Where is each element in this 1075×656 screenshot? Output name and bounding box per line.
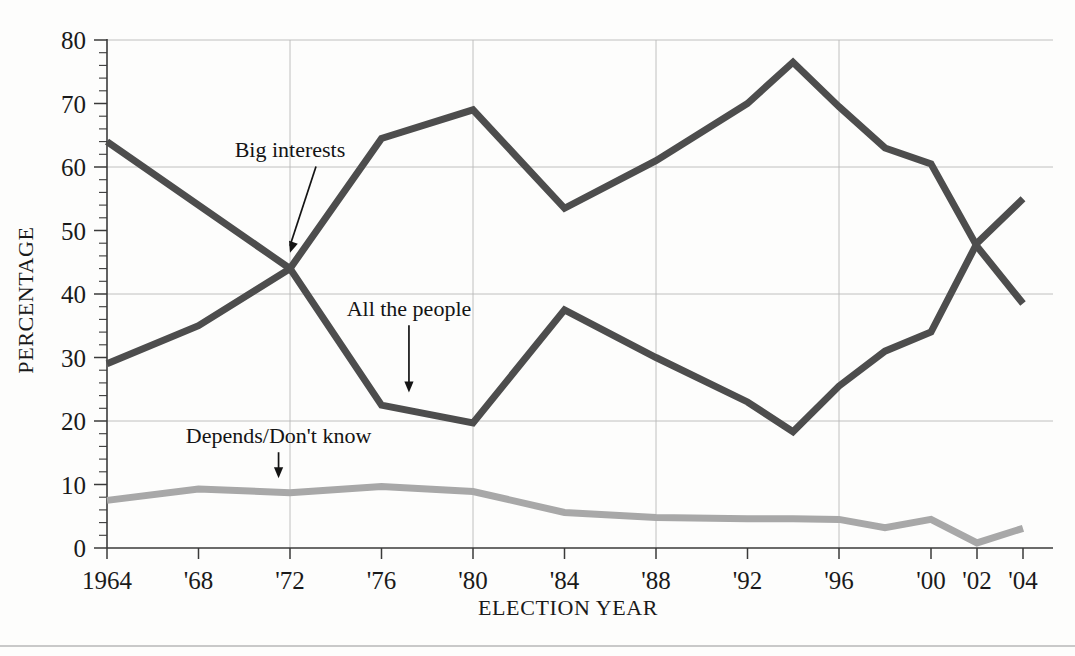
series-line-0: [107, 62, 1023, 364]
ticks-group: [94, 40, 1023, 559]
y-tick-label: 50: [61, 218, 86, 245]
y-tick-label: 40: [61, 281, 86, 308]
y-tick-label: 80: [61, 27, 86, 54]
annotation-label-2: Depends/Don't know: [186, 423, 372, 448]
y-tick-label: 0: [74, 535, 87, 562]
x-tick-label: '00: [916, 567, 946, 594]
series-group: [107, 62, 1023, 543]
y-tick-label: 20: [61, 408, 86, 435]
x-tick-label: '72: [275, 567, 305, 594]
y-tick-label: 70: [61, 91, 86, 118]
x-tick-label: '96: [824, 567, 854, 594]
annotation-arrowhead-0: [286, 241, 298, 254]
x-tick-label: '84: [550, 567, 580, 594]
annotation-label-0: Big interests: [235, 137, 346, 162]
x-tick-label: '88: [641, 567, 671, 594]
y-tick-label: 60: [61, 154, 86, 181]
x-tick-label: '02: [962, 567, 992, 594]
chart-figure: 01020304050607080 1964'68'72'76'80'84'88…: [0, 0, 1075, 656]
annotation-arrowhead-2: [274, 467, 283, 478]
x-axis-title: ELECTION YEAR: [478, 595, 658, 620]
y-tick-labels-group: 01020304050607080: [61, 27, 86, 562]
y-tick-label: 10: [61, 472, 86, 499]
x-tick-label: '76: [367, 567, 397, 594]
x-tick-label: '92: [733, 567, 763, 594]
x-tick-label: '80: [458, 567, 488, 594]
annotation-label-1: All the people: [347, 296, 472, 321]
x-tick-labels-group: 1964'68'72'76'80'84'88'92'96'00'02'04: [82, 567, 1038, 594]
x-tick-label: 1964: [82, 567, 133, 594]
footer-divider: [0, 645, 1075, 647]
y-tick-label: 30: [61, 345, 86, 372]
series-line-1: [107, 142, 1023, 432]
x-tick-label: '04: [1008, 567, 1038, 594]
series-line-2: [107, 486, 1023, 543]
y-axis-title: PERCENTAGE: [13, 226, 38, 373]
x-tick-label: '68: [184, 567, 214, 594]
annotation-arrowhead-1: [404, 381, 413, 392]
line-chart-svg: 01020304050607080 1964'68'72'76'80'84'88…: [0, 0, 1075, 656]
